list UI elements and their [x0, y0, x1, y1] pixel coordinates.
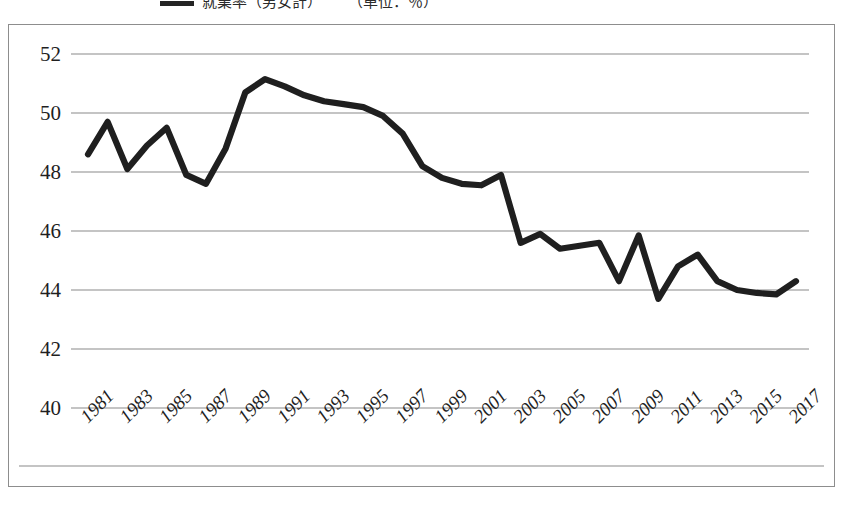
x-axis-tick-label: 1981: [76, 385, 118, 427]
y-axis-tick-label: 40: [40, 396, 61, 420]
x-axis-tick-label: 1983: [115, 385, 157, 427]
y-axis-tick-label: 44: [40, 278, 62, 302]
cut-off-legend-strip: 就業率（男女計） （単位：％）: [0, 0, 851, 12]
y-axis-tick-label: 48: [40, 160, 61, 184]
x-axis-tick-label: 2005: [548, 385, 590, 427]
x-axis-tick-label: 1985: [155, 385, 197, 427]
x-axis-tick-label: 2001: [469, 385, 511, 427]
chart-frame: 4042444648505219811983198519871989199119…: [8, 24, 835, 487]
y-axis-tick-label: 46: [40, 219, 61, 243]
x-axis-tick-label: 1995: [351, 385, 393, 427]
legend-unit-note: （単位：％）: [348, 0, 438, 11]
y-axis-tick-label: 42: [40, 337, 61, 361]
data-series-line: [88, 79, 796, 299]
x-axis-tick-label: 2007: [587, 384, 630, 427]
x-axis-tick-label: 2011: [666, 386, 707, 427]
x-axis-tick-label: 2003: [509, 385, 551, 427]
x-axis-tick-label: 2009: [627, 385, 669, 427]
x-axis-tick-label: 2013: [705, 385, 747, 427]
legend-line-swatch: [160, 1, 194, 6]
x-axis-tick-label: 2015: [745, 385, 787, 427]
x-axis-tick-label: 1987: [194, 384, 237, 427]
x-axis-tick-label: 1999: [430, 385, 472, 427]
x-axis-tick-label: 1989: [233, 385, 275, 427]
x-axis-tick-label: 1993: [312, 385, 354, 427]
legend-swatch-wrapper: 就業率（男女計）: [160, 0, 322, 11]
legend-series-label: 就業率（男女計）: [202, 0, 322, 10]
x-axis-tick-label: 1991: [273, 385, 315, 427]
y-axis-tick-label: 50: [40, 101, 61, 125]
line-chart-plot: 4042444648505219811983198519871989199119…: [9, 25, 834, 486]
x-axis-tick-label: 2017: [784, 384, 827, 427]
y-axis-tick-label: 52: [40, 42, 61, 66]
x-axis-tick-label: 1997: [391, 384, 434, 427]
